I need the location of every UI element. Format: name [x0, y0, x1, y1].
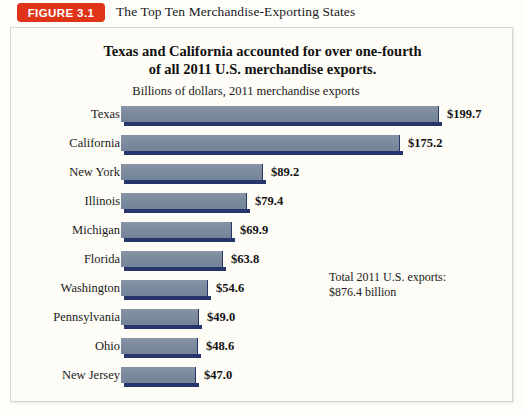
bar-row: Illinois$79.4: [11, 191, 514, 220]
bar-row: Michigan$69.9: [11, 220, 514, 249]
bar-value-label: $175.2: [408, 136, 442, 151]
bar: [121, 135, 400, 156]
total-exports-line-1: Total 2011 U.S. exports:: [329, 270, 446, 285]
bar-category-label: California: [0, 136, 120, 151]
bar-category-label: Illinois: [0, 194, 120, 209]
bar: [121, 367, 196, 388]
chart-title-line-2: of all 2011 U.S. merchandise exports.: [11, 60, 514, 78]
chart-panel: Texas and California accounted for over …: [10, 27, 513, 402]
bar: [121, 309, 199, 330]
bar-row: Texas$199.7: [11, 104, 514, 133]
bar-value-label: $79.4: [255, 194, 283, 209]
bar-category-label: New York: [0, 165, 120, 180]
bar-fill: [121, 106, 439, 122]
bar-shadow: [124, 325, 202, 329]
bar-shadow: [124, 383, 199, 387]
bar-fill: [121, 251, 223, 267]
bar-fill: [121, 280, 208, 296]
bar-value-label: $47.0: [204, 368, 232, 383]
bar-shadow: [124, 151, 403, 155]
bar-category-label: Texas: [0, 107, 120, 122]
bar-fill: [121, 367, 196, 383]
bar-category-label: Pennsylvania: [0, 310, 120, 325]
bar-shadow: [124, 180, 266, 184]
chart-title: Texas and California accounted for over …: [11, 42, 514, 78]
chart-axis-caption: Billions of dollars, 2011 merchandise ex…: [11, 84, 481, 99]
bar-fill: [121, 222, 232, 238]
bar-row: Ohio$48.6: [11, 336, 514, 365]
figure-number-badge: FIGURE 3.1: [17, 3, 105, 22]
bar: [121, 280, 208, 301]
bar-category-label: Michigan: [0, 223, 120, 238]
total-exports-annotation: Total 2011 U.S. exports: $876.4 billion: [329, 270, 446, 300]
bar-chart-plot-area: Texas$199.7California$175.2New York$89.2…: [11, 104, 514, 396]
bar: [121, 106, 439, 127]
bar-shadow: [124, 209, 250, 213]
bar-row: New York$89.2: [11, 162, 514, 191]
bar-fill: [121, 338, 198, 354]
bar-value-label: $63.8: [231, 252, 259, 267]
figure-header: FIGURE 3.1 The Top Ten Merchandise-Expor…: [0, 0, 525, 28]
figure-caption: The Top Ten Merchandise-Exporting States: [116, 4, 355, 20]
bar-fill: [121, 135, 400, 151]
bar-row: California$175.2: [11, 133, 514, 162]
bar-shadow: [124, 267, 226, 271]
bar-category-label: New Jersey: [0, 368, 120, 383]
bar-value-label: $199.7: [447, 107, 481, 122]
bar: [121, 338, 198, 359]
bar-value-label: $48.6: [206, 339, 234, 354]
bar: [121, 193, 247, 214]
bar-fill: [121, 164, 263, 180]
bar-value-label: $69.9: [240, 223, 268, 238]
bar-row: Pennsylvania$49.0: [11, 307, 514, 336]
bar-value-label: $89.2: [271, 165, 299, 180]
chart-title-line-1: Texas and California accounted for over …: [104, 43, 422, 59]
bar-value-label: $49.0: [207, 310, 235, 325]
bar-fill: [121, 309, 199, 325]
bar-shadow: [124, 122, 442, 126]
bar: [121, 251, 223, 272]
bar-value-label: $54.6: [216, 281, 244, 296]
bar-category-label: Washington: [0, 281, 120, 296]
bar-shadow: [124, 354, 201, 358]
total-exports-line-2: $876.4 billion: [329, 285, 446, 300]
bar: [121, 164, 263, 185]
bar-shadow: [124, 238, 235, 242]
bar-category-label: Florida: [0, 252, 120, 267]
bar-category-label: Ohio: [0, 339, 120, 354]
bar-shadow: [124, 296, 211, 300]
bar-row: New Jersey$47.0: [11, 365, 514, 394]
bar: [121, 222, 232, 243]
bar-fill: [121, 193, 247, 209]
